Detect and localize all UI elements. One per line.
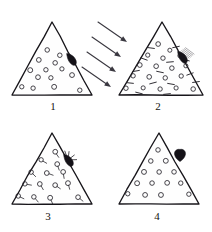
panel-3-number-label: 3	[45, 210, 51, 222]
panel-2-arrow-head-2	[114, 51, 122, 59]
panel-1-triangle-outline	[12, 22, 92, 95]
panel-1-number-label: 1	[50, 100, 56, 112]
panel-4-edge-marker	[174, 149, 185, 161]
panel-2-arrow-2	[92, 37, 122, 59]
panel-3-triangle-outline	[12, 133, 92, 204]
panel-2-arrow-shaft-1	[98, 22, 124, 40]
panel-4-group: 4	[119, 133, 199, 222]
figure-root: 1234	[0, 0, 212, 232]
panel-2-arrow-shaft-2	[92, 37, 118, 55]
marker-blob-shape	[174, 149, 185, 161]
panel-2-number-label: 2	[155, 100, 161, 112]
figure-canvas: 1234	[0, 0, 212, 232]
panel-2-group: 2	[82, 22, 203, 112]
panel-1-group: 1	[12, 22, 92, 112]
panel-3-group: 3	[12, 133, 92, 222]
panel-2-arrow-head-4	[104, 81, 112, 89]
panel-2-arrow-3	[87, 52, 117, 74]
panel-2-arrow-1	[98, 22, 128, 44]
panel-2-arrow-head-1	[120, 36, 128, 44]
panel-4-number-label: 4	[154, 210, 160, 222]
panel-2-dash-4	[167, 62, 174, 63]
panel-2-arrow-shaft-3	[87, 52, 113, 70]
panel-2-arrow-head-3	[109, 66, 117, 74]
marker-burst-ray-2	[71, 155, 74, 158]
panel-2-arrow-shaft-4	[82, 67, 108, 85]
